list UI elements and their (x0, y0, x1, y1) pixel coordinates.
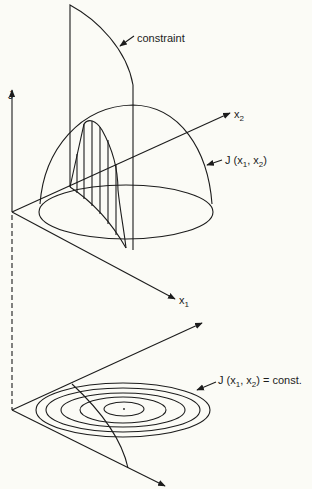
j-axis-label: J (8, 89, 14, 101)
contour-ellipses (36, 383, 210, 437)
svg-text:J (x1, x2) = const.: J (x1, x2) = const. (218, 374, 302, 389)
svg-text:J (x1, x2): J (x1, x2) (225, 154, 267, 169)
x1-axis-label: x1 (179, 294, 190, 309)
contour-label: J (x1, x2) = const. (218, 374, 302, 389)
dome-surface-outline (40, 105, 212, 204)
constrained-optimization-diagram: J x2 x1 constraint J (x1, x2) J (x1, x2) (0, 0, 312, 489)
x2-axis (12, 113, 230, 212)
svg-text:x2: x2 (234, 108, 245, 123)
constraint-intersection-hatch (70, 121, 126, 248)
top-3d-plot: J x2 x1 constraint J (x1, x2) (8, 5, 267, 410)
bottom-contour-plot: J (x1, x2) = const. (12, 323, 302, 486)
constraint-label: constraint (137, 32, 185, 44)
optimum-point (123, 408, 125, 410)
constraint-pointer-arrow (120, 36, 134, 46)
surface-pointer-arrow (207, 160, 222, 165)
dome-base-ellipse (39, 185, 213, 239)
svg-text:x1: x1 (179, 294, 190, 309)
x2-axis-bottom (12, 323, 202, 410)
contour-pointer-arrow (197, 382, 216, 390)
x2-axis-label: x2 (234, 108, 245, 123)
surface-label: J (x1, x2) (225, 154, 267, 169)
x1-axis (12, 212, 175, 299)
